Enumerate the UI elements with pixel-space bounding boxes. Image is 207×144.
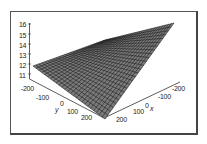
x-tick-200: 200 xyxy=(116,116,127,123)
z-tick-13: 13 xyxy=(19,52,26,59)
z-tick-15: 15 xyxy=(19,32,26,39)
y-tick-minus100: -100 xyxy=(36,94,49,101)
y-tick-0: 0 xyxy=(60,100,64,107)
z-tick-14: 14 xyxy=(19,42,26,49)
x-axis-label: x xyxy=(150,105,154,112)
y-tick-200: 200 xyxy=(81,114,92,121)
z-tick-11: 11 xyxy=(19,72,26,79)
y-tick-100: 100 xyxy=(67,108,78,115)
z-tick-16: 16 xyxy=(19,21,26,28)
x-tick-minus200: -200 xyxy=(172,85,185,92)
x-tick-100: 100 xyxy=(133,108,144,115)
y-tick-minus200: -200 xyxy=(21,85,34,92)
x-tick-0: 0 xyxy=(145,102,149,109)
surface-plot xyxy=(0,0,207,144)
y-axis-label: y xyxy=(55,106,59,113)
x-tick-minus100: -100 xyxy=(158,93,171,100)
z-tick-12: 12 xyxy=(19,62,26,69)
